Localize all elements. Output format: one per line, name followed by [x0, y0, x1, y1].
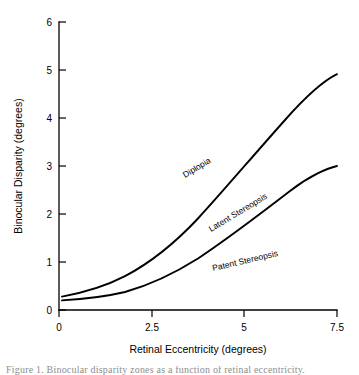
- x-tick-label-0: 0: [56, 322, 62, 333]
- y-tick-label-4: 4: [46, 113, 52, 124]
- y-tick-label-6: 6: [46, 17, 52, 28]
- y-tick-label-1: 1: [46, 257, 52, 268]
- chart-plot: 6 5 4 3 2 1 0 0 2.5 5 7.5 Retinal Eccent…: [0, 0, 359, 375]
- y-axis-title: Binocular Disparity (degrees): [12, 98, 24, 233]
- x-tick-label-5: 5: [241, 322, 247, 333]
- figure-caption-strip: Figure 1. Binocular disparity zones as a…: [0, 366, 359, 375]
- region-label-patent-stereopsis: Patent Stereopsis: [211, 248, 279, 273]
- x-axis-title: Retinal Eccentricity (degrees): [129, 343, 266, 355]
- region-label-diplopia: Diplopia: [181, 155, 213, 180]
- x-axis-ticks: [59, 310, 337, 317]
- curve-diplopia: [62, 74, 337, 296]
- figure-caption-text: Figure 1. Binocular disparity zones as a…: [6, 366, 356, 375]
- curve-patent-stereopsis: [62, 166, 337, 300]
- figure-container: 6 5 4 3 2 1 0 0 2.5 5 7.5 Retinal Eccent…: [0, 0, 359, 375]
- y-tick-label-0: 0: [46, 305, 52, 316]
- x-tick-label-2p5: 2.5: [145, 322, 159, 333]
- y-tick-label-5: 5: [46, 65, 52, 76]
- y-axis-ticks: [59, 22, 66, 310]
- x-tick-label-7p5: 7.5: [330, 322, 344, 333]
- y-tick-label-3: 3: [46, 161, 52, 172]
- y-tick-label-2: 2: [46, 209, 52, 220]
